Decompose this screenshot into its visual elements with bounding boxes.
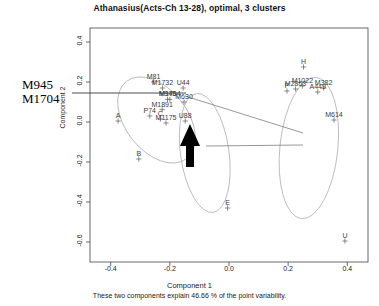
y-tick-label: -0.6 [76, 230, 83, 252]
point-label: P74 [144, 107, 156, 114]
point-label: H [301, 58, 306, 65]
y-tick-label: 0.2 [76, 70, 83, 92]
plot-canvas [0, 0, 379, 306]
y-tick-label: 0.4 [76, 30, 83, 52]
point-label: M614 [325, 111, 343, 118]
data-points [115, 64, 347, 243]
point-label: U44 [177, 79, 190, 86]
chart-figure: Athanasius(Acts-Ch 13-28), optimal, 3 cl… [0, 0, 379, 306]
plot-frame [86, 28, 368, 266]
x-tick-label: 0.0 [214, 265, 244, 272]
annotation-line-1: M945 [22, 78, 60, 92]
x-tick-label: -0.2 [155, 265, 185, 272]
chart-subtitle: These two components explain 46.66 % of … [0, 292, 379, 299]
x-axis-label: Component 1 [0, 281, 379, 290]
point-label: B [136, 150, 141, 157]
point-label: P [285, 82, 290, 89]
point-label: E [225, 199, 230, 206]
point-label: U [342, 232, 347, 239]
y-tick-label: -0.4 [76, 190, 83, 212]
x-tick-label: 0.2 [273, 265, 303, 272]
point-label: U88 [179, 112, 192, 119]
point-label: M1732 [152, 79, 173, 86]
point-label: A [116, 112, 121, 119]
y-tick-label: 0.0 [76, 110, 83, 132]
point-label: M1175 [156, 114, 177, 121]
y-tick-label: -0.2 [76, 150, 83, 172]
annotation-line-2: M1704 [22, 92, 60, 106]
point-label: M630 [175, 93, 193, 100]
external-annotation: M945 M1704 [22, 78, 60, 106]
point-label: A449 [310, 83, 326, 90]
x-tick-label: 0.4 [332, 265, 362, 272]
x-tick-label: -0.4 [96, 265, 126, 272]
